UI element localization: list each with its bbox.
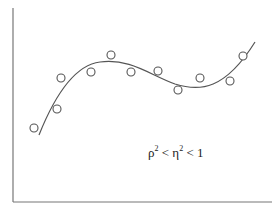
fit-curve (39, 42, 255, 135)
data-point-marker (30, 124, 38, 132)
data-point-marker (239, 52, 247, 60)
data-point-marker (196, 74, 204, 82)
correlation-annotation: ρ2 < η2 < 1 (148, 144, 204, 161)
data-point-marker (127, 68, 135, 76)
data-point-marker (57, 74, 65, 82)
data-point-marker (226, 77, 234, 85)
data-point-marker (53, 105, 61, 113)
scatter-plot (0, 0, 280, 212)
data-point-marker (107, 51, 115, 59)
data-point-marker (174, 86, 182, 94)
data-point-marker (87, 68, 95, 76)
data-points (30, 51, 247, 132)
data-point-marker (154, 67, 162, 75)
